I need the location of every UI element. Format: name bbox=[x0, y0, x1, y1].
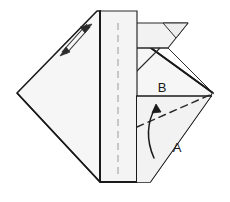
origami-diagram: A B bbox=[0, 0, 230, 202]
left-panel bbox=[17, 11, 100, 182]
label-a: A bbox=[173, 140, 182, 155]
label-b: B bbox=[158, 80, 167, 95]
lower-right-flap-group bbox=[136, 93, 213, 182]
origami-figure: A B bbox=[0, 0, 230, 202]
center-strip-group bbox=[100, 11, 137, 182]
